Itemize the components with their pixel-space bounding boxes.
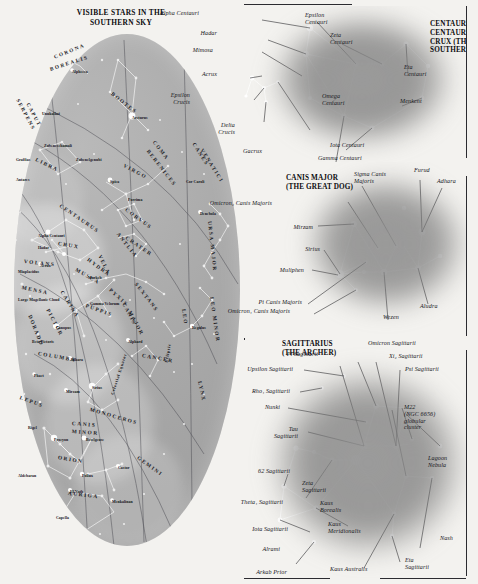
star-name-alphecca: Alphecca bbox=[72, 70, 88, 74]
centaurus-eta-centauri-label: Eta Centauri bbox=[404, 64, 426, 78]
star-name-cor-caroli: Cor Caroli bbox=[186, 180, 204, 184]
sagittarius-eta-sagittarii-label: Eta Sagittarii bbox=[405, 557, 429, 571]
star-name-capella: Capella bbox=[56, 516, 69, 520]
sagittarius-tau-sagittarii-label: Tau Sagittarii bbox=[274, 426, 298, 440]
sagittarius-theta1-sagittarii-label: Theta₁ Sagittarii bbox=[241, 499, 283, 506]
sagittarius-nunki-label: Nunki bbox=[265, 404, 280, 411]
star-name-hadar: Hadar bbox=[38, 246, 49, 250]
canis-major-omicron1-canis-majoris-label: Omicron₁ Canis Majoris bbox=[228, 308, 290, 315]
star-chart-page: VISIBLE STARS IN THE SOUTHERN SKY bbox=[0, 0, 478, 584]
divider-bottom-right bbox=[380, 578, 466, 579]
sagittarius-pi-sagittarii-label: Pi Sagittarii bbox=[287, 351, 318, 358]
star-name-zubenelgenubi: Zubenelgenubi bbox=[76, 158, 102, 162]
star-name-mirzam: Mirzam bbox=[66, 390, 80, 394]
canis-major-muliphen-label: Muliphen bbox=[280, 267, 304, 274]
star-name-pollux: Pollux bbox=[82, 474, 93, 478]
star-name-beta-pictoris: Beta Pictoris bbox=[32, 340, 54, 344]
sagittarius-rho1-sagittarii-label: Rho₁ Sagittarii bbox=[252, 388, 290, 395]
sagittarius-psi-sagittarii-label: Psi Sagittarii bbox=[405, 366, 439, 373]
star-name-antares: Antares bbox=[16, 178, 29, 182]
centaurus-iota-centauri-label: Iota Centauri bbox=[330, 142, 364, 149]
sagittarius-kaus-australis-label: Kaus Australis bbox=[330, 566, 367, 573]
divider-top bbox=[244, 4, 352, 5]
sagittarius-m22-label: M22 (NGC 6656) globular cluster bbox=[404, 404, 435, 431]
canis-major-sirius-label: Sirius bbox=[305, 246, 320, 253]
star-name-betelgeuse: Betelgeuse bbox=[86, 438, 104, 442]
centaurus-omega-centauri-label: Omega Centauri bbox=[322, 93, 344, 107]
sagittarius-upsilon-sagittarii-label: Upsilon Sagittarii bbox=[247, 366, 293, 373]
centaurus-epsilon-centauri-label: Epsilon Centauri bbox=[305, 12, 327, 26]
star-name-porrima: Porrima bbox=[128, 198, 142, 202]
centaurus-alpha-centauri-label: Alpha Centauri bbox=[160, 10, 199, 17]
divider-bottom-left bbox=[244, 578, 330, 579]
star-name-aldebaran: Aldebaran bbox=[18, 474, 36, 478]
centaurus-zeta-centauri-label: Zeta Centauri bbox=[330, 32, 352, 46]
centaurus-panel: CENTAURUS (THE CENTAUR) AND CRUX (THE SO… bbox=[244, 6, 466, 162]
sagittarius-kaus-borealis-label: Kaus Borealis bbox=[320, 500, 341, 514]
centaurus-gacrux-label: Gacrux bbox=[243, 148, 262, 155]
sagittarius-kaus-meridionalis-label: Kaus Meridionalis bbox=[328, 521, 361, 535]
divider-centaurus-right bbox=[466, 6, 467, 158]
star-name-el-nath: El Nath bbox=[70, 490, 83, 494]
sagittarius-62-sagittarii-label: 62 Sagittarii bbox=[258, 468, 290, 475]
star-name-graffias: Graffias bbox=[16, 158, 30, 162]
star-name-canopus: Canopus bbox=[56, 326, 71, 330]
sagittarius-arkab-prior-label: Arkab Prior bbox=[256, 569, 287, 576]
canis-major-furud-label: Furud bbox=[414, 167, 430, 174]
star-name-zubeneschamali: Zubeneschamali bbox=[44, 144, 72, 148]
star-name-phact: Phact bbox=[34, 374, 44, 378]
sagittarius-alrami-label: Alrami bbox=[262, 546, 280, 553]
star-name-alphard: Alphard bbox=[128, 340, 142, 344]
star-name-menkalinan: Menkalinan bbox=[112, 500, 133, 504]
canis-major-adhara-label: Adhara bbox=[437, 178, 456, 185]
divider-sagittarius-right bbox=[466, 350, 467, 576]
star-name-miaplacidus: Miaplacidus bbox=[18, 270, 39, 274]
star-name-sirius: Sirius bbox=[92, 386, 102, 390]
star-name-acrux: Acrux bbox=[40, 264, 51, 268]
canis-major-omicron2-canis-majoris-label: Omicron₂ Canis Majoris bbox=[210, 200, 272, 207]
canis-major-sigma-canis-majoris-label: Sigma Canis Majoris bbox=[354, 171, 386, 185]
star-name-markeb: Markeb bbox=[88, 276, 102, 280]
star-name-unukalhai: Unukalhai bbox=[42, 112, 60, 116]
sagittarius-lagoon-nebula-label: Lagoon Nebula bbox=[428, 455, 447, 469]
sagittarius-nash-label: Nash bbox=[440, 535, 453, 542]
centaurus-hadar-label: Hadar bbox=[201, 30, 217, 37]
centaurus-mimosa-label: Mimosa bbox=[193, 47, 213, 54]
star-name-regulus: Regulus bbox=[192, 326, 206, 330]
sagittarius-iota-sagittarii-label: Iota Sagittarii bbox=[252, 526, 288, 533]
star-name-arcturus: Arcturus bbox=[132, 116, 147, 120]
sagittarius-xi2-sagittarii-label: Xi₂ Sagittarii bbox=[389, 353, 422, 360]
sagittarius-omicron-sagittarii-label: Omicron Sagittarii bbox=[368, 340, 416, 347]
sagittarius-zeta-sagittarii-label: Zeta Sagittarii bbox=[302, 480, 326, 494]
southern-sky-map: CORONABOREALISSERPENSCAPUTBOOTESLIBRAVIR… bbox=[14, 34, 240, 546]
star-name-adhara: Adhara bbox=[70, 358, 83, 362]
centaurus-title: CENTAURUS (THE CENTAUR) AND CRUX (THE SO… bbox=[430, 20, 466, 55]
star-name-castor: Castor bbox=[118, 466, 130, 470]
star-name-denebola: Denebola bbox=[200, 212, 216, 216]
centaurus-delta-crucis-label: Delta Crucis bbox=[218, 122, 235, 136]
canis-major-aludra-label: Aludra bbox=[420, 303, 438, 310]
centaurus-epsilon-crucis-label: Epsilon Crucis bbox=[171, 92, 190, 106]
star-name-spica: Spica bbox=[110, 180, 119, 184]
star-name-procyon: Procyon bbox=[54, 438, 68, 442]
star-name-large-magellanic-cloud: Large Magellanic Cloud bbox=[18, 298, 60, 302]
canis-major-wezen-label: Wezen bbox=[383, 314, 399, 321]
star-name-alpha-centauri: Alpha Centauri bbox=[38, 234, 65, 238]
centaurus-menkent-label: Menkent bbox=[400, 98, 422, 105]
star-name-gamma-velorum: Gamma Velorum bbox=[90, 302, 119, 306]
centaurus-gamma-centauri-label: Gamma Centauri bbox=[318, 155, 362, 162]
centaurus-acrux-label: Acrux bbox=[202, 71, 217, 78]
canis-major-mirzam-label: Mirzam bbox=[293, 224, 313, 231]
star-name-rigel: Rigel bbox=[28, 426, 37, 430]
divider-canis-right bbox=[466, 176, 467, 336]
canis-major-pi-canis-majoris-label: Pi Canis Majoris bbox=[258, 299, 302, 306]
